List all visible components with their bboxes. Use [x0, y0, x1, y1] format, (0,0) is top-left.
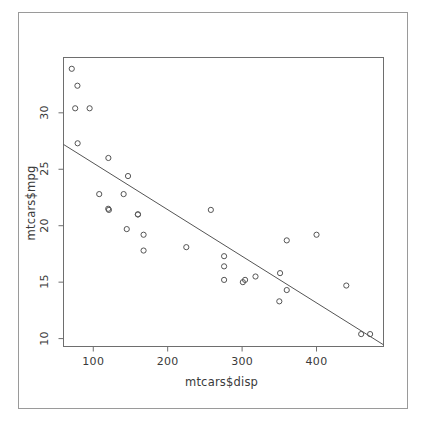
data-point — [221, 264, 226, 269]
y-tick-label-10: 10 — [37, 328, 50, 348]
data-point — [277, 271, 282, 276]
data-point — [69, 66, 74, 71]
data-point — [314, 232, 319, 237]
data-point — [284, 287, 289, 292]
y-tick-label-30: 30 — [37, 102, 50, 122]
data-point — [135, 212, 140, 217]
data-point — [106, 155, 111, 160]
data-point — [75, 83, 80, 88]
data-point — [284, 238, 289, 243]
x-tick-label-300: 300 — [230, 355, 254, 368]
data-point — [221, 254, 226, 259]
data-point — [344, 283, 349, 288]
x-tick-label-100: 100 — [81, 355, 105, 368]
data-point — [359, 331, 364, 336]
y-tick-label-20: 20 — [37, 215, 50, 235]
data-point — [184, 245, 189, 250]
data-point — [75, 141, 80, 146]
data-point — [125, 173, 130, 178]
regression-line-segment — [64, 144, 384, 344]
y-axis-title: mtcars$mpg — [24, 163, 38, 243]
axis-tick-marks — [59, 113, 317, 352]
scatter-plot-canvas — [0, 0, 425, 421]
y-tick-label-15: 15 — [37, 272, 50, 292]
data-point — [141, 248, 146, 253]
x-tick-label-400: 400 — [305, 355, 329, 368]
y-tick-label-25: 25 — [37, 159, 50, 179]
data-points — [69, 66, 373, 336]
data-point — [221, 277, 226, 282]
data-point — [277, 299, 282, 304]
data-point — [121, 191, 126, 196]
data-point — [97, 191, 102, 196]
x-axis-title: mtcars$disp — [185, 375, 258, 389]
regression-line — [64, 144, 384, 344]
data-point — [141, 232, 146, 237]
r-plot-window: 100200300400 1015202530 mtcars$disp mtca… — [0, 0, 425, 421]
data-point — [124, 226, 129, 231]
data-point — [87, 106, 92, 111]
x-tick-label-200: 200 — [156, 355, 180, 368]
data-point — [73, 106, 78, 111]
data-point — [253, 274, 258, 279]
data-point — [208, 207, 213, 212]
